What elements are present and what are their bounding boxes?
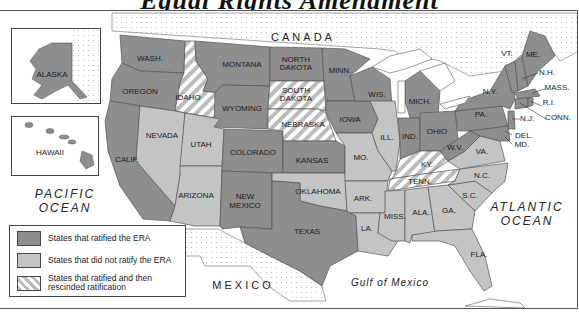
label-hawaii: HAWAII — [36, 148, 64, 157]
label-mass: MASS. — [545, 83, 570, 92]
alaska-map: ALASKA — [12, 29, 100, 103]
label-md: MD. — [515, 140, 530, 149]
label-arizona: ARIZONA — [178, 191, 214, 200]
legend-label-not-ratified: States that did not ratify the ERA — [48, 256, 171, 265]
label-texas: TEXAS — [294, 227, 320, 236]
label-minn: MINN. — [329, 66, 352, 75]
label-miss: MISS. — [384, 212, 406, 221]
label-tenn: TENN. — [408, 177, 432, 186]
label-ind: IND. — [402, 132, 418, 141]
label-vt: VT. — [501, 49, 513, 58]
label-wis: WIS. — [368, 90, 385, 99]
label-wyoming: WYOMING — [222, 104, 262, 113]
label-atlantic-1: ATLANTIC — [489, 200, 563, 214]
label-calif: CALIF. — [115, 155, 139, 164]
legend-label-rescinded-line2: rescinded ratification — [48, 282, 126, 292]
label-ala: ALA. — [412, 208, 429, 217]
state-wisconsin — [350, 67, 392, 106]
label-colorado: COLORADO — [230, 148, 276, 157]
label-south-dakota: DAKOTA — [280, 94, 313, 103]
label-wv: W.V. — [447, 143, 463, 152]
label-la: LA. — [361, 224, 373, 233]
state-connecticut — [515, 98, 528, 109]
label-utah: UTAH — [190, 140, 211, 149]
label-nh: N.H. — [539, 68, 555, 77]
map-frame: WASH. OREGON CALIF. IDAHO NEVADA MONTANA… — [0, 10, 578, 309]
label-va: VA. — [476, 147, 488, 156]
label-idaho: IDAHO — [175, 93, 200, 102]
map-legend: States that ratified the ERA States that… — [9, 225, 186, 297]
label-atlantic-2: OCEAN — [501, 214, 554, 228]
label-nj: N.J. — [520, 114, 534, 123]
label-canada: CANADA — [271, 31, 335, 43]
label-ky: KY. — [421, 160, 433, 169]
legend-item-rescinded: States that ratified and then rescinded … — [17, 274, 152, 292]
label-ark: ARK. — [354, 194, 373, 203]
label-conn: CONN. — [545, 113, 571, 122]
alaska-inset: ALASKA — [11, 28, 101, 104]
label-iowa: IOWA — [339, 115, 361, 124]
label-mich: MICH. — [409, 97, 432, 106]
state-rhode-island — [528, 98, 533, 107]
label-ri: R.I. — [543, 98, 555, 107]
label-oregon: OREGON — [122, 87, 158, 96]
label-me: ME. — [526, 50, 540, 59]
label-pacific-1: PACIFIC — [35, 187, 95, 201]
label-montana: MONTANA — [222, 60, 262, 69]
label-ny: N.Y. — [483, 87, 498, 96]
label-alaska: ALASKA — [36, 70, 68, 79]
label-ohio: OHIO — [427, 127, 447, 136]
label-del: DEL. — [515, 131, 533, 140]
label-mexico: MEXICO — [212, 279, 273, 291]
label-gulf: Gulf of Mexico — [351, 277, 429, 288]
label-fla: FLA. — [471, 250, 488, 259]
label-kansas: KANSAS — [296, 156, 328, 165]
label-north-dakota: DAKOTA — [280, 63, 313, 72]
state-new-jersey — [508, 111, 515, 129]
label-mexico-state: MEXICO — [229, 201, 261, 210]
label-mo: MO. — [353, 153, 368, 162]
label-pacific-2: OCEAN — [39, 201, 92, 215]
hawaii-map: HAWAII — [12, 117, 98, 175]
label-wash: WASH. — [137, 54, 163, 63]
legend-item-ratified: States that ratified the ERA — [17, 231, 151, 246]
label-ill: ILL. — [380, 133, 393, 142]
hawaii-inset: HAWAII — [11, 116, 99, 176]
label-nc: N.C. — [474, 171, 490, 180]
label-ga: GA. — [442, 206, 456, 215]
label-nevada: NEVADA — [146, 131, 179, 140]
legend-swatch-ratified — [17, 231, 41, 246]
label-sc: S.C. — [462, 191, 478, 200]
label-nebraska: NEBRASKA — [281, 120, 325, 129]
label-oklahoma: OKLAHOMA — [295, 187, 341, 196]
legend-swatch-not-ratified — [17, 253, 41, 268]
label-pa: PA. — [475, 110, 487, 119]
lake-michigan — [398, 81, 405, 113]
legend-label-ratified: States that ratified the ERA — [48, 234, 151, 243]
legend-label-rescinded: States that ratified and then rescinded … — [48, 274, 152, 292]
cuba-shape — [465, 299, 525, 308]
legend-item-not-ratified: States that did not ratify the ERA — [17, 253, 171, 268]
legend-swatch-rescinded — [17, 276, 41, 291]
label-new: NEW — [236, 192, 255, 201]
map-title: Equal Rights Amendment — [0, 0, 579, 6]
